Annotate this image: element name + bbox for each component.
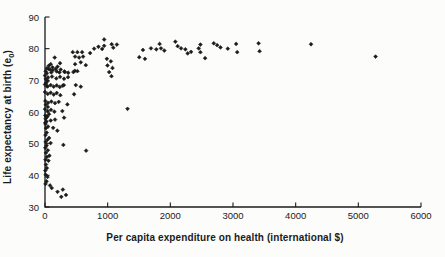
data-point [173,40,177,44]
data-point [102,38,106,42]
data-point [107,70,111,74]
y-tick-label: 90 [28,12,39,23]
data-point [162,49,166,53]
data-point [203,56,207,60]
data-point [309,42,313,46]
data-point [75,50,79,54]
data-point [71,50,75,54]
data-point [61,188,65,192]
data-point [111,46,115,50]
x-tick-label: 3000 [222,210,243,221]
y-tick-label: 60 [28,107,39,118]
data-point [110,42,114,46]
data-point [54,77,58,81]
data-point [53,101,57,105]
data-point [115,43,119,47]
data-point [88,51,92,55]
y-axis-title-main: Life expectancy at birth (e [2,58,13,184]
data-point [158,42,162,46]
data-point [212,41,216,45]
data-point [53,110,57,114]
data-point [234,42,238,46]
data-point [50,75,54,79]
data-point [74,83,78,87]
data-point [100,47,104,51]
data-point [215,43,219,47]
data-point [176,44,180,48]
data-point [106,64,110,68]
data-point [72,92,76,96]
data-point [92,47,96,51]
data-point [143,57,147,61]
data-point [51,126,55,130]
data-point [257,41,261,45]
x-tick-label: 1000 [97,210,118,221]
data-point [57,100,61,104]
data-point [49,141,53,145]
data-point [62,77,66,81]
data-point [49,119,53,123]
y-axis-title-close: ) [2,50,13,53]
x-axis-title: Per capita expenditure on health (intern… [0,232,445,243]
data-point [219,46,223,50]
data-point [149,46,153,50]
data-point [55,129,59,133]
data-point [226,47,230,51]
data-point [102,44,106,48]
data-point [62,116,66,120]
data-point [77,56,81,60]
y-tick-label: 80 [28,43,39,54]
plot-area: 010002000300040005000600030405060708090 [0,0,445,257]
data-point [137,55,141,59]
axis-frame [45,17,421,207]
data-point [79,85,83,89]
data-point [179,46,183,50]
y-axis-title: Life expectancy at birth (e0) [2,50,16,184]
data-point [65,103,69,107]
y-tick-label: 50 [28,138,39,149]
data-point [97,45,101,49]
x-tick-label: 2000 [160,210,181,221]
data-point [84,149,88,153]
data-point [58,75,62,79]
y-tick-label: 70 [28,75,39,86]
data-point [109,59,113,63]
x-tick-label: 4000 [285,210,306,221]
y-tick-label: 40 [28,170,39,181]
data-point [183,47,187,51]
data-point [61,143,65,147]
data-point [110,74,114,78]
data-point [53,56,57,60]
data-point [79,60,83,64]
data-point [58,61,62,65]
data-point [73,55,77,59]
data-point [84,63,88,67]
data-point [199,43,203,47]
data-point [235,50,239,54]
data-point [73,62,77,66]
data-point [105,57,109,61]
data-point [141,48,145,52]
x-tick-label: 5000 [348,210,369,221]
scatter-figure: 010002000300040005000600030405060708090 … [0,0,445,257]
data-point [111,66,115,70]
data-point [81,55,85,59]
data-point [56,190,60,194]
data-point [258,49,262,53]
data-point [53,118,57,122]
data-point [199,50,203,54]
data-point [58,93,62,97]
x-tick-label: 6000 [410,210,431,221]
data-point [66,75,70,79]
data-point [66,71,70,75]
data-point [59,195,63,199]
x-tick-label: 0 [42,210,47,221]
data-point [64,193,68,197]
data-point [154,47,158,51]
data-point [60,109,64,113]
data-point [374,55,378,59]
data-point [80,50,84,54]
y-tick-label: 30 [28,202,39,213]
data-point [197,46,201,50]
y-axis-title-subscript: 0 [7,54,16,58]
